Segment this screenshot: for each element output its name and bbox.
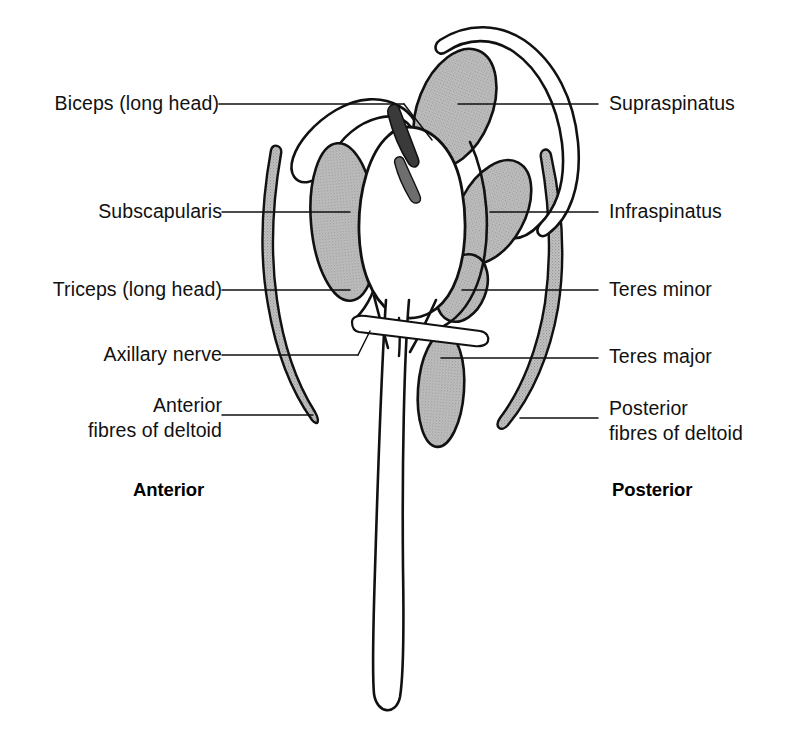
label-posterior-fibres-of-deltoid-line1: Posterior bbox=[609, 397, 688, 421]
label-teres-major: Teres major bbox=[609, 345, 712, 369]
label-infraspinatus: Infraspinatus bbox=[609, 200, 722, 224]
label-subscapularis: Subscapularis bbox=[98, 200, 222, 224]
axillary-nerve-shape bbox=[352, 316, 488, 347]
label-supraspinatus: Supraspinatus bbox=[609, 92, 735, 116]
label-biceps-long-head: Biceps (long head) bbox=[55, 92, 219, 116]
humerus-shaft-shape bbox=[373, 300, 409, 710]
orientation-label-anterior: Anterior bbox=[133, 479, 204, 501]
label-axillary-nerve: Axillary nerve bbox=[104, 343, 222, 367]
label-teres-minor: Teres minor bbox=[609, 278, 712, 302]
anatomy-figure: Biceps (long head) Subscapularis Triceps… bbox=[0, 0, 787, 734]
label-posterior-fibres-of-deltoid-line2: fibres of deltoid bbox=[609, 422, 743, 446]
label-triceps-long-head: Triceps (long head) bbox=[53, 278, 222, 302]
anterior-deltoid-shape bbox=[263, 146, 318, 423]
teres-major-shape bbox=[414, 332, 468, 449]
leader-line-axillary-b bbox=[358, 331, 370, 355]
label-anterior-fibres-of-deltoid-line1: Anterior bbox=[153, 394, 222, 418]
label-anterior-fibres-of-deltoid-line2: fibres of deltoid bbox=[88, 419, 222, 443]
orientation-label-posterior: Posterior bbox=[612, 479, 692, 501]
